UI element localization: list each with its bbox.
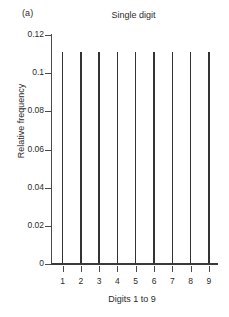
x-tick-mark (81, 266, 82, 272)
figure-panel: (a) Single digit Relative frequency Digi… (0, 0, 229, 317)
x-tick-label: 8 (183, 276, 199, 286)
y-tick-mark (45, 35, 51, 36)
x-tick-label: 1 (55, 276, 71, 286)
bar (117, 52, 119, 264)
bar (172, 52, 174, 264)
y-tick-label: 0.1 (14, 68, 44, 77)
x-tick-mark (117, 266, 118, 272)
y-tick-mark (45, 188, 51, 189)
x-tick-mark (172, 266, 173, 272)
bar (80, 52, 82, 264)
y-tick-label: 0.04 (14, 183, 44, 192)
x-tick-label: 6 (146, 276, 162, 286)
bar (190, 52, 192, 264)
chart-title: Single digit (0, 10, 229, 20)
x-tick-mark (99, 266, 100, 272)
x-tick-label: 2 (73, 276, 89, 286)
bar (208, 52, 210, 264)
x-tick-label: 9 (201, 276, 217, 286)
x-tick-mark (209, 266, 210, 272)
y-tick-label: 0.02 (14, 221, 44, 230)
y-tick-label: 0.12 (14, 30, 44, 39)
x-tick-mark (154, 266, 155, 272)
bar (98, 52, 100, 264)
y-tick-mark (45, 264, 51, 265)
y-tick-label: 0 (14, 259, 44, 268)
x-tick-mark (63, 266, 64, 272)
y-tick-label: 0.06 (14, 145, 44, 154)
y-tick-mark (45, 150, 51, 151)
y-tick-mark (45, 111, 51, 112)
x-axis-title: Digits 1 to 9 (52, 294, 212, 304)
x-tick-mark (191, 266, 192, 272)
x-tick-label: 4 (109, 276, 125, 286)
y-axis-line (51, 34, 52, 265)
y-tick-mark (45, 73, 51, 74)
x-tick-mark (136, 266, 137, 272)
bar (153, 52, 155, 264)
x-tick-label: 7 (164, 276, 180, 286)
bar (135, 52, 137, 264)
plot-area (0, 0, 229, 317)
y-tick-label: 0.08 (14, 106, 44, 115)
bar (62, 52, 64, 264)
x-tick-label: 3 (91, 276, 107, 286)
x-tick-label: 5 (128, 276, 144, 286)
y-tick-mark (45, 226, 51, 227)
